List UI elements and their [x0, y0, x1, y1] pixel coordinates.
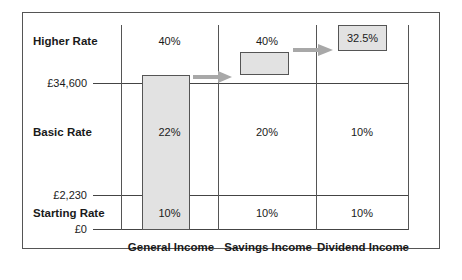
band-label-higher: Higher Rate — [33, 35, 98, 47]
general-starting-rate: 10% — [121, 207, 218, 219]
column-label-dividend: Dividend Income — [308, 241, 418, 253]
threshold-label-34600: £34,600 — [17, 77, 87, 89]
general-basic-rate: 22% — [121, 126, 218, 138]
savings-higher-rate: 40% — [218, 35, 316, 47]
general-higher-rate: 40% — [121, 35, 218, 47]
band-label-basic: Basic Rate — [33, 126, 92, 138]
column-label-savings: Savings Income — [213, 241, 323, 253]
savings-starting-rate: 10% — [218, 207, 316, 219]
column-label-general: General Income — [116, 241, 226, 253]
threshold-label-0: £0 — [17, 223, 87, 235]
arrow-icon-general-to-savings — [193, 71, 232, 83]
threshold-label-2230: £2,230 — [17, 189, 87, 201]
dividend-basic-rate: 10% — [316, 126, 408, 138]
savings-basic-rate: 20% — [218, 126, 316, 138]
dividend-starting-rate: 10% — [316, 207, 408, 219]
band-label-starting: Starting Rate — [33, 207, 105, 219]
dividend-higher-rate: 32.5% — [338, 32, 387, 44]
